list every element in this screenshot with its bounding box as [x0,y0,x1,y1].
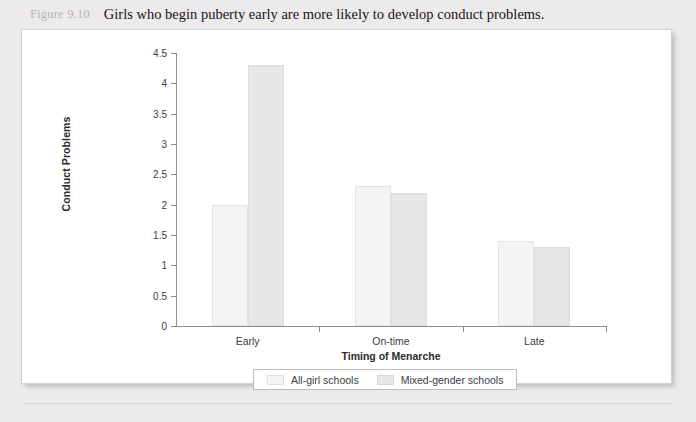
bar-late-series-1 [534,247,570,326]
legend-item: All-girl schools [267,374,359,386]
legend-swatch [377,375,394,385]
figure-panel: Conduct Problems 00.511.522.533.544.5Ear… [21,29,672,384]
bar-late-series-0 [498,241,534,326]
x-axis-tick-label: Late [524,335,544,347]
y-axis-tick-label: 2 [161,199,167,210]
y-axis-tick-label: 2.5 [153,169,167,180]
y-axis-tick: 3.5 [171,114,176,115]
y-axis-tick-label: 1 [161,260,167,271]
legend-label: All-girl schools [291,374,359,386]
chart-legend: All-girl schoolsMixed-gender schools [253,369,517,390]
bar-on-time-series-1 [391,193,427,326]
y-axis-title: Conduct Problems [60,84,72,244]
legend-label: Mixed-gender schools [401,374,504,386]
bar-on-time-series-0 [355,186,391,326]
y-axis-tick-label: 0.5 [153,290,167,301]
figure-number: Figure 9.10 [30,7,90,22]
x-axis-title: Timing of Menarche [176,350,606,362]
y-axis-tick: 0.5 [171,296,176,297]
bar-early-series-0 [212,205,248,326]
page-divider [24,403,672,404]
y-axis-tick: 2 [171,205,176,206]
y-axis-tick-label: 4.5 [153,48,167,59]
y-axis-tick: 1 [171,265,176,266]
y-axis-tick: 1.5 [171,235,176,236]
y-axis-tick-label: 0 [161,321,167,332]
x-axis-tick [606,326,607,332]
figure-caption-text: Girls who begin puberty early are more l… [104,6,545,23]
x-axis-tick-label: On-time [372,335,409,347]
x-axis-line [176,326,606,327]
bar-chart: Conduct Problems 00.511.522.533.544.5Ear… [22,30,673,385]
plot-area: 00.511.522.533.544.5EarlyOn-timeLate [176,53,606,326]
x-axis-tick [463,326,464,332]
y-axis-tick: 4.5 [171,53,176,54]
legend-item: Mixed-gender schools [377,374,504,386]
y-axis-tick: 2.5 [171,174,176,175]
y-axis-tick: 4 [171,83,176,84]
x-axis-tick-label: Early [236,335,260,347]
bar-early-series-1 [248,65,284,326]
y-axis-tick-label: 4 [161,78,167,89]
legend-swatch [267,375,284,385]
y-axis-tick-label: 1.5 [153,230,167,241]
y-axis-tick: 0 [171,326,176,327]
x-axis-tick [319,326,320,332]
y-axis-tick-label: 3.5 [153,108,167,119]
y-axis-tick: 3 [171,144,176,145]
y-axis-tick-label: 3 [161,139,167,150]
figure-caption: Figure 9.10 Girls who begin puberty earl… [0,0,696,28]
y-axis-line [176,53,177,326]
